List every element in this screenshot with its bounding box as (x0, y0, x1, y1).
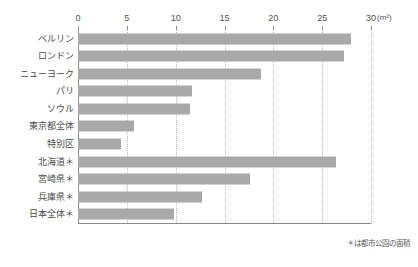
x-axis-baseline (78, 223, 371, 224)
bar (78, 174, 250, 185)
category-label: パリ (56, 86, 74, 97)
chart-row: ニューヨーク (78, 65, 371, 83)
bar (78, 68, 261, 79)
bar-chart: 051015202530 (m²) ベルリンロンドンニューヨークパリソウル東京都… (0, 0, 418, 267)
x-axis-tick-label: 0 (75, 13, 80, 23)
x-axis-tick-label: 20 (268, 13, 278, 23)
bar (78, 33, 351, 44)
chart-row: パリ (78, 83, 371, 101)
category-label: 宮崎県＊ (38, 174, 74, 185)
bar (78, 191, 202, 202)
chart-row: ロンドン (78, 48, 371, 66)
chart-row: 北海道＊ (78, 153, 371, 171)
bar (78, 86, 192, 97)
chart-row: 東京都全体 (78, 118, 371, 136)
x-axis-tick-label: 30 (366, 13, 376, 23)
x-axis-tick-label: 15 (219, 13, 229, 23)
bar (78, 103, 190, 114)
x-axis-unit-label: (m²) (377, 13, 392, 23)
chart-row: 特別区 (78, 135, 371, 153)
chart-row: 宮崎県＊ (78, 170, 371, 188)
bar (78, 51, 344, 62)
category-label: ベルリン (38, 33, 74, 44)
category-label: 東京都全体 (29, 121, 74, 132)
category-label: 兵庫県＊ (38, 191, 74, 202)
category-label: ロンドン (38, 51, 74, 62)
bar (78, 139, 121, 150)
plot-area: ベルリンロンドンニューヨークパリソウル東京都全体特別区北海道＊宮崎県＊兵庫県＊日… (78, 30, 371, 223)
chart-footnote: ＊は都市公園の面積 (347, 239, 410, 248)
category-label: 特別区 (47, 139, 74, 150)
bar (78, 209, 174, 220)
bar (78, 121, 134, 132)
x-axis-tick-label: 10 (171, 13, 181, 23)
chart-row: 兵庫県＊ (78, 188, 371, 206)
bar (78, 156, 336, 167)
category-label: ソウル (47, 103, 74, 114)
chart-row: ベルリン (78, 30, 371, 48)
category-label: 日本全体＊ (29, 209, 74, 220)
chart-row: ソウル (78, 100, 371, 118)
chart-row: 日本全体＊ (78, 205, 371, 223)
category-label: 北海道＊ (38, 156, 74, 167)
category-label: ニューヨーク (20, 68, 74, 79)
x-axis-tick-label: 5 (124, 13, 129, 23)
x-axis-tick-label: 25 (317, 13, 327, 23)
gridline (371, 30, 372, 223)
